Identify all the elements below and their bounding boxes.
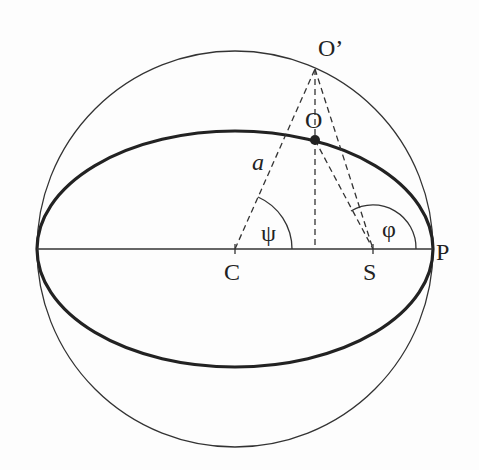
label-phi: φ [382, 216, 396, 242]
label-s: S [363, 259, 376, 285]
label-a: a [252, 149, 264, 175]
ellipse-anomaly-diagram: O’ O a ψ φ C S P [0, 0, 479, 470]
point-o-dot [310, 135, 320, 145]
o-to-s-line [315, 140, 373, 249]
label-o: O [305, 107, 322, 133]
label-o-prime: O’ [318, 35, 343, 61]
label-p: P [436, 239, 449, 265]
label-psi: ψ [261, 220, 276, 246]
label-c: C [224, 259, 240, 285]
